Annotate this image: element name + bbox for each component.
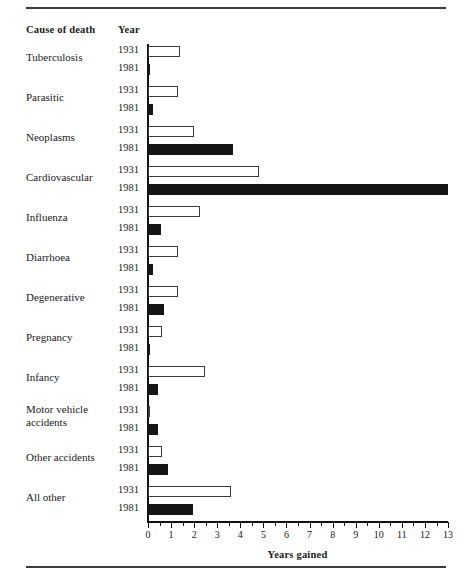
year-label-degenerative-1931: 1931 xyxy=(118,284,139,295)
x-tick-label-6: 6 xyxy=(275,529,297,540)
bar-parasitic-1981 xyxy=(148,104,153,115)
category-label-degenerative: Degenerative xyxy=(26,291,85,304)
x-tick-10.5 xyxy=(390,522,391,526)
year-label-motor-vehicle-accidents-1931: 1931 xyxy=(118,404,139,415)
year-label-parasitic-1981: 1981 xyxy=(118,102,139,113)
bar-infancy-1981 xyxy=(148,384,158,395)
category-label-other-accidents: Other accidents xyxy=(26,451,95,464)
year-label-tuberculosis-1931: 1931 xyxy=(118,44,139,55)
year-label-infancy-1931: 1931 xyxy=(118,364,139,375)
year-label-neoplasms-1931: 1931 xyxy=(118,124,139,135)
x-tick-1.5 xyxy=(183,522,184,526)
x-tick-label-13: 13 xyxy=(437,529,459,540)
category-label-neoplasms: Neoplasms xyxy=(26,131,75,144)
x-tick-0.5 xyxy=(160,522,161,526)
bar-motor-vehicle-accidents-1981 xyxy=(148,424,158,435)
bar-tuberculosis-1931 xyxy=(148,46,180,57)
x-tick-8 xyxy=(333,522,334,528)
x-tick-11 xyxy=(402,522,403,528)
x-tick-7 xyxy=(310,522,311,528)
bar-influenza-1981 xyxy=(148,224,161,235)
category-label-all-other: All other xyxy=(26,491,65,504)
bar-neoplasms-1981 xyxy=(148,144,233,155)
year-label-influenza-1981: 1981 xyxy=(118,222,139,233)
category-label-cardiovascular: Cardiovascular xyxy=(26,171,93,184)
x-tick-9 xyxy=(356,522,357,528)
year-label-influenza-1931: 1931 xyxy=(118,204,139,215)
x-tick-3 xyxy=(217,522,218,528)
category-label-tuberculosis: Tuberculosis xyxy=(26,51,82,64)
year-label-pregnancy-1981: 1981 xyxy=(118,342,139,353)
x-tick-11.5 xyxy=(413,522,414,526)
year-label-diarrhoea-1931: 1931 xyxy=(118,244,139,255)
bar-diarrhoea-1981 xyxy=(148,264,153,275)
x-tick-4.5 xyxy=(252,522,253,526)
bar-tuberculosis-1981 xyxy=(148,64,150,75)
year-label-motor-vehicle-accidents-1981: 1981 xyxy=(118,422,139,433)
x-tick-12.5 xyxy=(437,522,438,526)
bar-diarrhoea-1931 xyxy=(148,246,178,257)
x-tick-label-9: 9 xyxy=(345,529,367,540)
x-tick-6.5 xyxy=(298,522,299,526)
year-label-parasitic-1931: 1931 xyxy=(118,84,139,95)
x-tick-13 xyxy=(448,522,449,528)
x-tick-1 xyxy=(171,522,172,528)
year-label-cardiovascular-1981: 1981 xyxy=(118,182,139,193)
x-tick-12 xyxy=(425,522,426,528)
x-tick-label-10: 10 xyxy=(368,529,390,540)
plot-area xyxy=(0,0,472,578)
category-label-motor-vehicle-accidents: Motor vehicle accidents xyxy=(26,403,88,429)
x-tick-7.5 xyxy=(321,522,322,526)
x-tick-3.5 xyxy=(229,522,230,526)
x-tick-label-4: 4 xyxy=(229,529,251,540)
bar-pregnancy-1931 xyxy=(148,326,162,337)
x-tick-10 xyxy=(379,522,380,528)
bar-pregnancy-1981 xyxy=(148,344,150,355)
year-label-other-accidents-1931: 1931 xyxy=(118,444,139,455)
category-label-diarrhoea: Diarrhoea xyxy=(26,251,70,264)
x-tick-2.5 xyxy=(206,522,207,526)
x-tick-5 xyxy=(263,522,264,528)
x-tick-label-2: 2 xyxy=(183,529,205,540)
bar-cardiovascular-1981 xyxy=(148,184,448,195)
x-tick-0 xyxy=(148,522,149,528)
x-axis-title: Years gained xyxy=(147,549,448,560)
x-tick-label-3: 3 xyxy=(206,529,228,540)
year-label-all-other-1931: 1931 xyxy=(118,484,139,495)
bar-parasitic-1931 xyxy=(148,86,178,97)
x-tick-label-1: 1 xyxy=(160,529,182,540)
bar-degenerative-1931 xyxy=(148,286,178,297)
year-label-pregnancy-1931: 1931 xyxy=(118,324,139,335)
figure-bar-chart-years-gained: Cause of death Year Years gained 1931198… xyxy=(0,0,472,578)
x-tick-5.5 xyxy=(275,522,276,526)
bar-cardiovascular-1931 xyxy=(148,166,259,177)
x-tick-8.5 xyxy=(344,522,345,526)
x-tick-label-12: 12 xyxy=(414,529,436,540)
bar-motor-vehicle-accidents-1931 xyxy=(148,406,150,417)
x-tick-label-8: 8 xyxy=(322,529,344,540)
category-label-parasitic: Parasitic xyxy=(26,91,64,104)
bar-all-other-1931 xyxy=(148,486,231,497)
bar-all-other-1981 xyxy=(148,504,193,515)
x-tick-label-5: 5 xyxy=(252,529,274,540)
category-label-infancy: Infancy xyxy=(26,371,60,384)
x-tick-6 xyxy=(286,522,287,528)
x-tick-2 xyxy=(194,522,195,528)
bar-neoplasms-1931 xyxy=(148,126,194,137)
year-label-cardiovascular-1931: 1931 xyxy=(118,164,139,175)
year-label-all-other-1981: 1981 xyxy=(118,502,139,513)
x-tick-4 xyxy=(240,522,241,528)
x-tick-label-0: 0 xyxy=(137,529,159,540)
year-label-tuberculosis-1981: 1981 xyxy=(118,62,139,73)
year-label-degenerative-1981: 1981 xyxy=(118,302,139,313)
x-tick-label-11: 11 xyxy=(391,529,413,540)
category-label-influenza: Influenza xyxy=(26,211,68,224)
bar-other-accidents-1981 xyxy=(148,464,168,475)
bar-influenza-1931 xyxy=(148,206,200,217)
bar-infancy-1931 xyxy=(148,366,205,377)
year-label-other-accidents-1981: 1981 xyxy=(118,462,139,473)
year-label-infancy-1981: 1981 xyxy=(118,382,139,393)
bar-other-accidents-1931 xyxy=(148,446,162,457)
year-label-neoplasms-1981: 1981 xyxy=(118,142,139,153)
year-label-diarrhoea-1981: 1981 xyxy=(118,262,139,273)
